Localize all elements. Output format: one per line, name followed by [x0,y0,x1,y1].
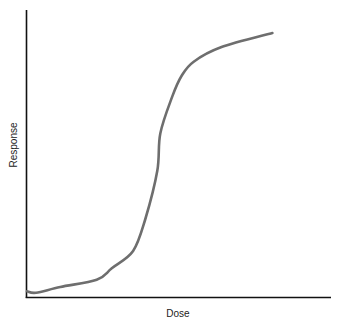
dose-response-chart [0,0,341,325]
dose-response-curve [27,33,272,293]
y-axis-label: Response [8,122,19,167]
x-axis-label: Dose [0,308,341,319]
